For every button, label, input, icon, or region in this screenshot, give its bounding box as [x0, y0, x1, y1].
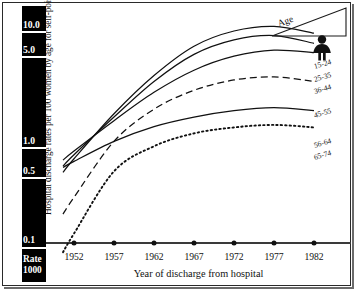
series-line-65-74	[63, 125, 314, 252]
chart-figure: Hospital discharge rates per 100 women b…	[0, 0, 357, 293]
legend: Age	[268, 6, 350, 62]
series-line-36-44	[63, 50, 314, 160]
legend-graphic	[268, 6, 350, 62]
series-line-45-55	[63, 77, 314, 214]
